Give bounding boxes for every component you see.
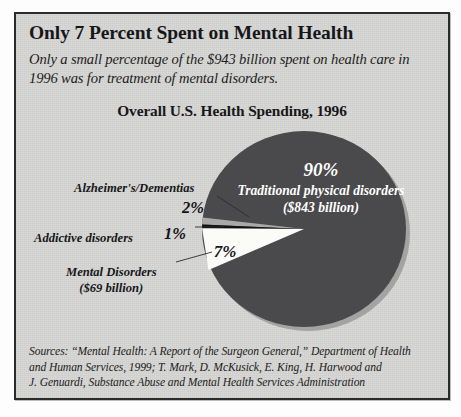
pie-chart: 90% Traditional physical disorders ($843… — [16, 14, 448, 398]
callout-label-alzheimers: Alzheimer's/Dementias — [74, 180, 194, 196]
callout-label-mental: Mental Disorders ($69 billion) — [66, 264, 157, 296]
callout-label-addictive: Addictive disorders — [34, 230, 133, 246]
callout-label-mental-value: ($69 billion) — [66, 280, 157, 296]
figure-inner: Only 7 Percent Spent on Mental Health On… — [16, 14, 448, 398]
pie-inside-value: ($843 billion) — [283, 200, 359, 216]
callout-pct-addictive: 1% — [164, 226, 186, 242]
pie-slice-mental-pct: 7% — [214, 242, 237, 261]
figure-frame: Only 7 Percent Spent on Mental Health On… — [14, 12, 450, 400]
source-note-line-3: J. Genuardi, Substance Abuse and Mental … — [29, 375, 441, 391]
figure-page: Only 7 Percent Spent on Mental Health On… — [0, 0, 461, 417]
callout-pct-alzheimers: 2% — [182, 200, 204, 216]
source-note: Sources: “Mental Health: A Report of the… — [29, 344, 441, 391]
source-note-line-2: and Human Services, 1999; T. Mark, D. Mc… — [29, 360, 441, 376]
source-note-line-1: Sources: “Mental Health: A Report of the… — [29, 344, 441, 360]
callout-label-mental-name: Mental Disorders — [66, 265, 157, 279]
pie-inside-pct: 90% — [304, 159, 339, 180]
pie-inside-label: Traditional physical disorders — [237, 183, 404, 198]
